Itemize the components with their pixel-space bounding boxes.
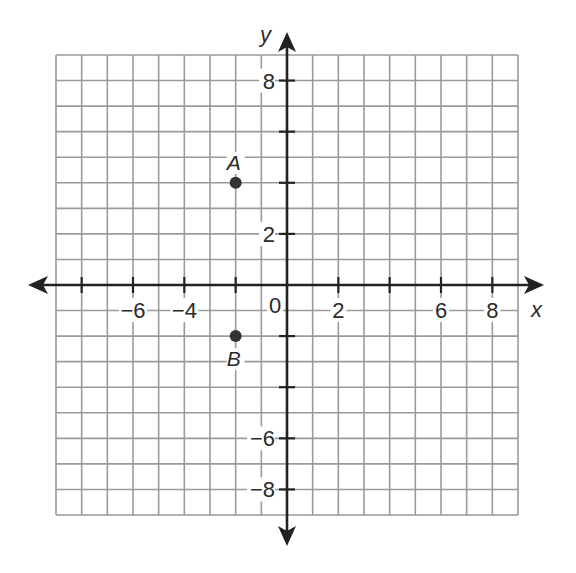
y-tick-label: −6 xyxy=(250,426,275,451)
point-B xyxy=(230,330,242,342)
point-label-A: A xyxy=(225,151,241,174)
x-axis-label: x xyxy=(530,297,543,322)
x-tick-label: 6 xyxy=(435,298,447,323)
x-tick-label: −6 xyxy=(120,298,145,323)
coordinate-plane: −6−426882−6−8 x y 0 AB xyxy=(0,0,576,573)
x-tick-label: 8 xyxy=(486,298,498,323)
x-tick-label: 2 xyxy=(332,298,344,323)
plotted-points: AB xyxy=(225,151,245,370)
point-A xyxy=(230,177,242,189)
origin-label: 0 xyxy=(269,293,281,318)
y-tick-label: 8 xyxy=(263,69,275,94)
point-label-B: B xyxy=(227,347,241,370)
y-tick-label: 2 xyxy=(263,222,275,247)
y-tick-label: −8 xyxy=(250,477,275,502)
x-tick-label: −4 xyxy=(172,298,197,323)
y-axis-label: y xyxy=(258,22,273,47)
